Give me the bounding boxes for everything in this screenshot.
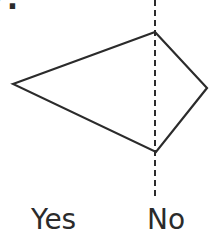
label-no: No	[147, 206, 185, 234]
label-yes: Yes	[31, 206, 76, 234]
kite-shape	[13, 32, 207, 152]
